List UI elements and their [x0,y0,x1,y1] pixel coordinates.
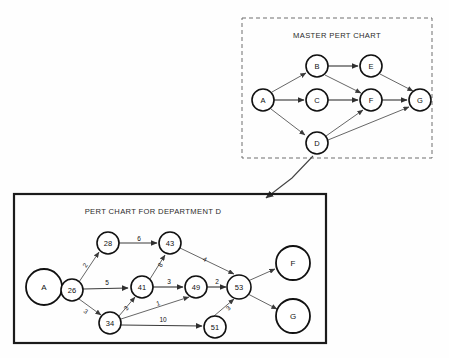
master-node-g[interactable]: G [409,89,431,111]
pert-chart-diagram: MASTER PERT CHART A [0,0,449,358]
dept-node-49[interactable]: 49 [185,276,207,298]
edge-43-to-53 [180,248,234,274]
dept-node-f[interactable]: F [276,246,310,280]
dept-node-41-label: 41 [138,283,146,292]
department-chart-nodes: A 26 28 34 41 [26,232,310,338]
expansion-link-arrow [266,156,313,198]
edge-26-to-41 [83,288,128,289]
edge-a-to-d [271,109,305,135]
edge-weight-51-53: 3 [224,304,232,312]
master-node-b-label: B [314,62,319,71]
master-chart-title: MASTER PERT CHART [293,31,381,40]
master-node-b[interactable]: B [306,55,328,77]
master-pert-chart-group: MASTER PERT CHART A [242,18,432,158]
dept-node-28-label: 28 [104,239,112,248]
master-node-d-label: D [314,139,320,148]
master-node-a[interactable]: A [252,89,274,111]
master-node-a-label: A [260,96,265,105]
edge-d-to-g [328,107,409,140]
master-node-f[interactable]: F [360,89,382,111]
edge-weight-34-49: 1 [155,299,161,307]
dept-node-28[interactable]: 28 [97,232,119,254]
dept-node-34[interactable]: 34 [99,312,121,334]
dept-node-41[interactable]: 41 [131,276,153,298]
edge-weight-26-34: 3 [82,307,89,315]
edge-26-to-28 [79,252,99,282]
dept-node-g[interactable]: G [276,299,310,333]
dept-node-g-label: G [290,312,296,321]
dept-node-26-label: 26 [68,286,76,295]
edge-b-to-f [325,75,361,93]
edge-d-to-f [326,110,363,136]
edge-weight-43-53: 4 [202,255,209,263]
edge-34-to-51 [121,325,202,326]
dept-node-a[interactable]: A [26,269,62,305]
master-chart-edges [271,66,413,140]
dept-node-43[interactable]: 43 [159,232,181,254]
edge-a-to-b [272,73,306,92]
edge-weight-26-41: 5 [105,279,109,286]
master-node-f-label: F [369,96,374,105]
dept-node-51-label: 51 [211,323,219,332]
edge-53-to-f [248,269,275,281]
master-chart-nodes: A B C D E [252,55,431,154]
edge-53-to-g [248,294,277,309]
dept-node-53[interactable]: 53 [227,275,251,299]
edge-weight-41-49: 3 [167,278,171,285]
dept-node-34-label: 34 [106,319,114,328]
diagram-canvas: MASTER PERT CHART A [0,0,449,358]
master-node-e-label: E [368,62,373,71]
dept-node-26[interactable]: 26 [61,279,83,301]
master-node-d[interactable]: D [306,132,328,154]
edge-weight-49-53: 2 [215,278,219,285]
master-node-e[interactable]: E [360,55,382,77]
master-node-c[interactable]: C [306,89,328,111]
master-node-g-label: G [417,96,423,105]
department-pert-chart-group: PERT CHART FOR DEPARTMENT D [14,194,326,343]
edge-e-to-g [380,74,413,91]
dept-node-53-label: 53 [235,283,243,292]
dept-node-f-label: F [291,259,296,268]
department-chart-title: PERT CHART FOR DEPARTMENT D [85,207,222,216]
dept-node-43-label: 43 [166,239,174,248]
edge-weight-28-43: 6 [137,235,141,242]
dept-node-51[interactable]: 51 [204,316,226,338]
edge-weight-34-51: 10 [159,316,167,323]
master-node-c-label: C [314,96,320,105]
edge-weight-26-28: 2 [81,261,89,268]
dept-node-a-label: A [41,283,47,292]
dept-node-49-label: 49 [192,283,200,292]
